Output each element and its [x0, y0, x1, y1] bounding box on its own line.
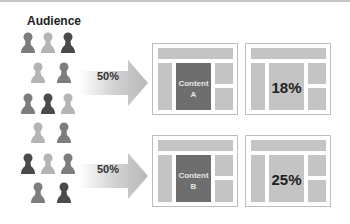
left-block — [251, 63, 265, 110]
right-top-block — [215, 63, 233, 84]
arrow-icon — [80, 60, 148, 106]
person-icon — [40, 32, 56, 54]
header-block — [158, 140, 233, 151]
content-label-b: Content B — [176, 170, 211, 192]
header-block — [158, 48, 233, 59]
person-icon — [60, 153, 76, 175]
left-block — [158, 155, 172, 202]
person-icon — [60, 93, 76, 115]
header-block — [251, 48, 326, 59]
right-bottom-block — [308, 88, 326, 110]
person-icon — [56, 122, 72, 144]
result-b: 25% — [264, 171, 309, 188]
right-bottom-block — [308, 180, 326, 202]
page-variant-b: Content B — [152, 135, 238, 207]
result-page-a: 18% — [245, 43, 331, 115]
person-icon — [40, 153, 56, 175]
page-variant-a: Content A — [152, 43, 238, 115]
person-icon — [20, 32, 36, 54]
split-label-b: 50% — [97, 163, 119, 175]
right-top-block — [308, 63, 326, 84]
result-a: 18% — [264, 79, 309, 96]
right-bottom-block — [215, 180, 233, 202]
left-block — [158, 63, 172, 110]
right-top-block — [215, 155, 233, 176]
header-block — [251, 140, 326, 151]
content-label-a: Content A — [176, 78, 211, 100]
right-bottom-block — [215, 88, 233, 110]
person-icon — [30, 122, 46, 144]
person-icon — [30, 182, 46, 204]
right-top-block — [308, 155, 326, 176]
person-icon — [56, 182, 72, 204]
left-block — [251, 155, 265, 202]
arrow-icon — [80, 153, 148, 199]
person-icon — [40, 93, 56, 115]
person-icon — [20, 93, 36, 115]
person-icon — [30, 62, 46, 84]
result-page-b: 25% — [245, 135, 331, 207]
top-divider — [0, 0, 350, 2]
person-icon — [60, 32, 76, 54]
person-icon — [56, 62, 72, 84]
person-icon — [20, 153, 36, 175]
split-label-a: 50% — [97, 70, 119, 82]
audience-title: Audience — [27, 14, 81, 28]
